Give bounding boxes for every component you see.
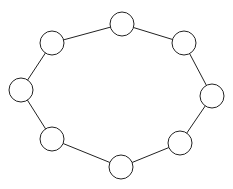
ring-diagram: [0, 0, 233, 189]
node-circle: [40, 31, 64, 55]
node-circle: [40, 127, 64, 151]
node-circle: [172, 31, 196, 55]
node-circle: [109, 155, 133, 179]
node-circle: [200, 84, 224, 108]
nodes: [9, 12, 224, 179]
node-circle: [168, 131, 192, 155]
node-circle: [110, 12, 134, 36]
node-circle: [9, 78, 33, 102]
